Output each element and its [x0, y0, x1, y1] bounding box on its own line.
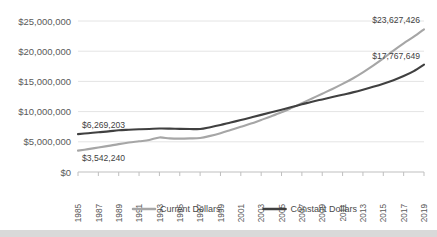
- x-axis-tick-label: 1985: [74, 204, 83, 223]
- y-axis-tick-label: $25,000,000: [18, 16, 71, 27]
- x-axis-tick-label: 2017: [400, 204, 409, 223]
- x-axis-tick-label: 2003: [257, 204, 266, 223]
- y-axis-tick-label: $5,000,000: [23, 136, 71, 147]
- series-line-current-dollars: [78, 29, 424, 150]
- y-axis-tick-label: $20,000,000: [18, 46, 71, 57]
- y-axis-tick-label: $15,000,000: [18, 76, 71, 87]
- x-axis-tick-label: 2001: [237, 204, 246, 223]
- x-axis-tick-label: 2005: [278, 204, 287, 223]
- chart-container: $25,000,000$20,000,000$15,000,000$10,000…: [0, 0, 437, 237]
- x-axis-tick-label: 2015: [379, 204, 388, 223]
- y-axis-tick-labels: $25,000,000$20,000,000$15,000,000$10,000…: [18, 16, 71, 178]
- x-axis-tick-label: 2019: [420, 204, 429, 223]
- x-axis-tick-labels: 1985198719891991199319951997199920012003…: [74, 204, 429, 223]
- data-label: $23,627,426: [372, 15, 420, 25]
- data-label: $17,767,649: [372, 51, 420, 61]
- y-axis-tick-label: $0: [60, 167, 71, 178]
- data-label: $3,542,240: [82, 153, 125, 163]
- bottom-band: [0, 230, 437, 237]
- data-label: $6,269,203: [82, 120, 125, 130]
- y-axis-tick-label: $10,000,000: [18, 106, 71, 117]
- x-axis-tick-label: 1987: [95, 204, 104, 223]
- line-chart: $25,000,000$20,000,000$15,000,000$10,000…: [0, 0, 437, 237]
- x-axis-tick-label: 1989: [115, 204, 124, 223]
- x-axis: [78, 172, 424, 176]
- data-series: [78, 29, 424, 150]
- legend-label: Constant Dollars: [291, 204, 358, 214]
- x-axis-tick-label: 2013: [359, 204, 368, 223]
- x-axis-tick-label: 1991: [135, 204, 144, 223]
- legend-label: Current Dollars: [160, 204, 221, 214]
